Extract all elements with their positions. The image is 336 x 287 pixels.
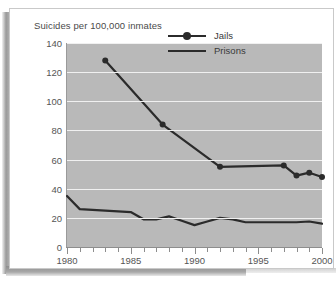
series-marker-jails [217, 164, 223, 170]
x-axis-tick [220, 248, 221, 252]
gridline [67, 189, 322, 190]
series-marker-jails [281, 162, 287, 168]
plot-area [67, 43, 322, 247]
legend-line-icon [168, 50, 206, 52]
y-axis-tick-label: 0 [57, 242, 62, 253]
x-axis-tick [258, 248, 259, 254]
legend-item-prisons: Prisons [168, 43, 260, 58]
x-axis-tick [297, 248, 298, 252]
series-marker-jails [102, 57, 108, 63]
y-axis-tick-label: 120 [46, 67, 62, 78]
x-axis-tick-label: 1980 [56, 255, 77, 266]
gridline [67, 72, 322, 73]
series-layer [67, 43, 322, 247]
x-axis-tick [131, 248, 132, 254]
series-marker-jails [319, 174, 325, 180]
x-axis-tick [195, 248, 196, 254]
series-marker-jails [160, 122, 166, 128]
legend-item-jails: Jails [168, 28, 260, 43]
y-axis-tick-labels: 020406080100120140 [24, 43, 62, 247]
x-axis-tick [144, 248, 145, 252]
y-axis-tick-label: 60 [51, 154, 62, 165]
x-axis-tick-label: 1990 [184, 255, 205, 266]
x-axis-tick [322, 248, 323, 254]
x-axis-tick [182, 248, 183, 252]
gridline [67, 101, 322, 102]
x-axis-tick [271, 248, 272, 252]
x-axis-tick [284, 248, 285, 252]
series-marker-jails [294, 173, 300, 179]
x-axis-tick [169, 248, 170, 252]
legend-label-jails: Jails [214, 28, 233, 43]
y-axis-tick-label: 40 [51, 183, 62, 194]
x-axis-tick [246, 248, 247, 252]
chart-title: Suicides per 100,000 inmates [34, 20, 162, 31]
series-line-prisons [67, 196, 322, 225]
x-axis-tick-label: 1985 [120, 255, 141, 266]
x-axis-tick [309, 248, 310, 252]
series-marker-jails [306, 170, 312, 176]
gridline [67, 160, 322, 161]
x-axis-tick-label: 2000 [311, 255, 332, 266]
chart-legend: Jails Prisons [168, 28, 260, 58]
y-axis-tick-label: 80 [51, 125, 62, 136]
legend-label-prisons: Prisons [214, 43, 246, 58]
gridline [67, 218, 322, 219]
x-axis-tick [118, 248, 119, 252]
x-axis-tick [105, 248, 106, 252]
gridline [67, 130, 322, 131]
x-axis-tick [207, 248, 208, 252]
x-axis-tick [80, 248, 81, 252]
x-axis-tick [67, 248, 68, 254]
chart-card: Suicides per 100,000 inmates 02040608010… [9, 8, 334, 269]
legend-circle-marker-icon [183, 32, 191, 40]
x-axis-tick [156, 248, 157, 252]
x-axis-tick [93, 248, 94, 252]
x-axis-tick-label: 1995 [248, 255, 269, 266]
y-axis-tick-label: 20 [51, 212, 62, 223]
y-axis-tick-label: 100 [46, 96, 62, 107]
y-axis-tick-label: 140 [46, 38, 62, 49]
figure-root: Suicides per 100,000 inmates 02040608010… [0, 0, 336, 287]
x-axis-tick [233, 248, 234, 252]
